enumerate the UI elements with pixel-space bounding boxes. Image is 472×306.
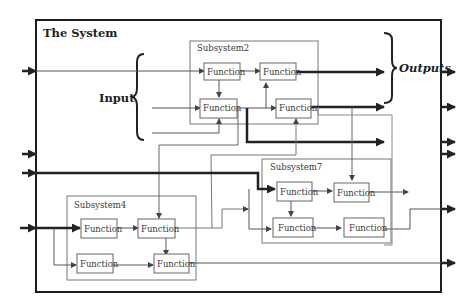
svg-text:Function: Function	[80, 259, 119, 269]
subsystem4-label: Subsystem4	[74, 200, 126, 210]
svg-text:Function: Function	[157, 259, 196, 269]
svg-text:Function: Function	[278, 223, 317, 233]
subsystem7-functions: Function Function Function Function	[273, 182, 388, 237]
system-title: The System	[43, 26, 118, 40]
subsystem7-label: Subsystem7	[270, 162, 322, 172]
svg-text:Function: Function	[203, 103, 242, 113]
svg-text:Function: Function	[263, 67, 302, 77]
system-diagram: The System Subsystem2 Subsystem4 Subsyst…	[0, 0, 472, 306]
svg-text:Function: Function	[141, 224, 180, 234]
svg-text:Function: Function	[349, 223, 388, 233]
subsystem2-label: Subsystem2	[197, 43, 249, 53]
svg-text:Function: Function	[337, 188, 376, 198]
system-boundary	[36, 20, 441, 292]
outputs-brace	[384, 33, 397, 103]
svg-text:Function: Function	[207, 67, 246, 77]
svg-text:Function: Function	[279, 103, 318, 113]
input-label: Input	[99, 91, 135, 105]
svg-text:Function: Function	[280, 187, 319, 197]
svg-text:Function: Function	[84, 224, 123, 234]
